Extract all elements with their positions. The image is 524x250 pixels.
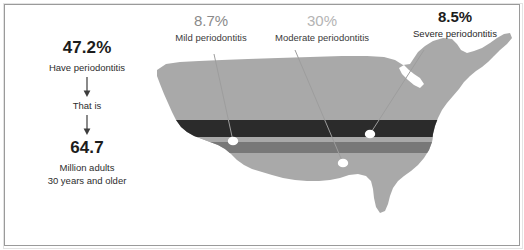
band-medium-gray: [142, 142, 524, 153]
callout-mild: 8.7% Mild periodontitis: [150, 12, 272, 44]
moderate-marker: [338, 159, 348, 168]
callout-mild-label: Mild periodontitis: [150, 31, 272, 44]
callout-severe-percent: 8.5%: [392, 8, 518, 26]
secondary-caption-line-1: Million adults: [14, 161, 160, 174]
callout-severe: 8.5% Severe periodontitis: [392, 8, 518, 40]
callout-moderate: 30% Moderate periodontitis: [258, 12, 386, 44]
callout-moderate-percent: 30%: [258, 12, 386, 30]
callout-moderate-label: Moderate periodontitis: [258, 31, 386, 44]
callout-severe-label: Severe periodontitis: [392, 27, 518, 40]
band-dark: [142, 120, 524, 137]
mild-marker: [228, 137, 238, 146]
prevalence-bands: [142, 120, 524, 153]
down-arrow-icon: [14, 112, 160, 138]
secondary-caption-line-2: 30 years and older: [14, 174, 160, 187]
primary-percent-caption: Have periodontitis: [14, 61, 160, 74]
infographic-figure: 47.2% Have periodontitis That is 64.7 Mi…: [0, 0, 524, 250]
callout-mild-percent: 8.7%: [150, 12, 272, 30]
severe-marker: [365, 130, 375, 139]
arrow-connector-top: [14, 74, 160, 100]
connector-label: That is: [14, 100, 160, 112]
secondary-value: 64.7: [14, 138, 160, 158]
arrow-connector-bottom: [14, 112, 160, 138]
left-statistics-block: 47.2% Have periodontitis That is 64.7 Mi…: [14, 38, 160, 187]
primary-percent-value: 47.2%: [14, 38, 160, 58]
down-arrow-icon: [14, 74, 160, 100]
